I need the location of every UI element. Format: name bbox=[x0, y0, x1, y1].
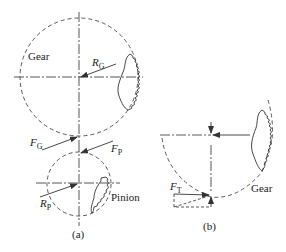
pinion-radius-label: RP bbox=[39, 197, 52, 212]
gear-force-arrow bbox=[42, 137, 77, 150]
gear-b-label: Gear bbox=[251, 182, 273, 194]
figure-a-caption: (a) bbox=[72, 228, 85, 241]
gear-b-teeth-icon bbox=[252, 110, 272, 171]
tangential-force-label: FT bbox=[169, 180, 182, 195]
diagram-canvas: Gear RG FG FP RP Pinion (a) FT Gear (b) bbox=[0, 0, 286, 252]
gear-teeth-icon bbox=[118, 54, 140, 110]
pinion-radius-arrow bbox=[40, 184, 77, 197]
gear-force-diagram: Gear RG FG FP RP Pinion (a) FT Gear (b) bbox=[0, 0, 286, 252]
gear-radius-label: RG bbox=[91, 56, 105, 71]
pinion-label: Pinion bbox=[111, 191, 140, 203]
pinion-force-arrow bbox=[81, 141, 113, 153]
resultant-force-arrow bbox=[174, 196, 209, 207]
gear-force-label: FG bbox=[29, 136, 43, 151]
pinion-force-label: FP bbox=[110, 142, 123, 157]
gear-label: Gear bbox=[28, 50, 50, 62]
figure-b-caption: (b) bbox=[203, 220, 216, 233]
pinion-teeth-icon bbox=[91, 177, 108, 213]
